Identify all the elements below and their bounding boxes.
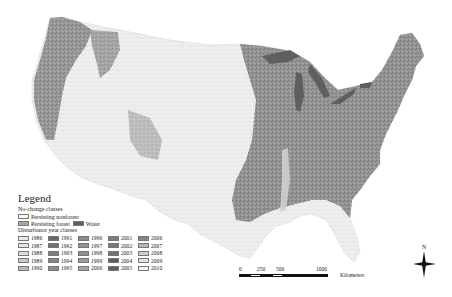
legend-item-nonforest: Persisting nonforest	[18, 213, 168, 220]
legend-year-item: 2007	[138, 243, 168, 249]
legend-year-item: 2003	[108, 250, 138, 256]
legend-year-item: 2009	[138, 258, 168, 264]
year-swatch	[48, 251, 59, 256]
swatch-nonforest	[18, 214, 29, 219]
legend-year-item: 2001	[108, 235, 138, 241]
north-arrow: N	[405, 242, 445, 282]
year-swatch	[18, 236, 29, 241]
legend-year-item: 1992	[48, 243, 78, 249]
year-swatch	[48, 243, 59, 248]
year-swatch	[108, 236, 119, 241]
legend-year-item: 2005	[108, 265, 138, 271]
map-legend: Legend No-change classes Persisting nonf…	[18, 192, 168, 271]
year-swatch	[108, 258, 119, 263]
year-swatch	[78, 236, 89, 241]
legend-year-item: 1986	[18, 235, 48, 241]
legend-year-item: 1996	[78, 235, 108, 241]
legend-year-item: 1991	[48, 235, 78, 241]
disturbance-year-grid: 1986199119962001200619871992199720022007…	[18, 235, 168, 271]
legend-year-item: 1990	[18, 265, 48, 271]
lake-ontario	[360, 82, 372, 88]
nochange-header: No-change classes	[18, 206, 168, 213]
legend-year-item: 2002	[108, 243, 138, 249]
legend-item-forest-water: Persisting forest Water	[18, 220, 168, 227]
year-swatch	[78, 251, 89, 256]
swatch-water	[73, 221, 84, 226]
legend-year-item: 1997	[78, 243, 108, 249]
svg-text:N: N	[422, 244, 427, 250]
compass-rose-icon: N	[405, 242, 445, 282]
year-swatch	[138, 243, 149, 248]
legend-year-item: 2006	[138, 235, 168, 241]
legend-year-item: 1999	[78, 258, 108, 264]
year-swatch	[18, 243, 29, 248]
scale-unit: Kilometers	[340, 272, 364, 278]
legend-year-item: 2008	[138, 250, 168, 256]
disturbance-header: Disturbance year classes	[18, 227, 168, 234]
year-swatch	[138, 258, 149, 263]
year-swatch	[138, 266, 149, 271]
year-swatch	[18, 258, 29, 263]
year-swatch	[18, 266, 29, 271]
legend-year-item: 1993	[48, 250, 78, 256]
legend-year-item: 1988	[18, 250, 48, 256]
year-swatch	[108, 266, 119, 271]
legend-year-item: 1998	[78, 250, 108, 256]
year-swatch	[48, 236, 59, 241]
legend-year-item: 2010	[138, 265, 168, 271]
year-swatch	[48, 266, 59, 271]
legend-year-item: 1987	[18, 243, 48, 249]
legend-title: Legend	[18, 192, 168, 204]
swatch-forest	[18, 221, 29, 226]
eastern-forest	[232, 33, 424, 222]
year-swatch	[78, 258, 89, 263]
year-swatch	[138, 236, 149, 241]
scale-bar-segments	[239, 274, 328, 277]
legend-year-item: 2004	[108, 258, 138, 264]
year-swatch	[78, 266, 89, 271]
legend-year-item: 1989	[18, 258, 48, 264]
legend-year-item: 1995	[48, 265, 78, 271]
legend-year-item: 1994	[48, 258, 78, 264]
year-swatch	[18, 251, 29, 256]
legend-year-item: 2000	[78, 265, 108, 271]
year-swatch	[108, 243, 119, 248]
year-swatch	[108, 251, 119, 256]
year-swatch	[138, 251, 149, 256]
year-swatch	[78, 243, 89, 248]
year-swatch	[48, 258, 59, 263]
